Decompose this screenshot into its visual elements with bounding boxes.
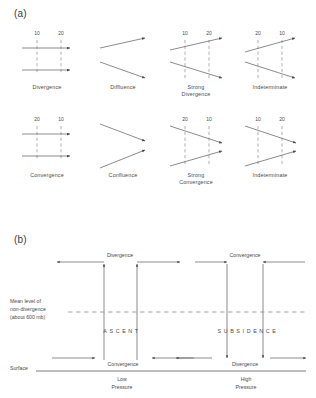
lower-left-label: Convergence — [108, 361, 139, 367]
flow-arrow — [245, 38, 295, 52]
flow-arrow — [100, 62, 145, 78]
upper-right-label: Convergence — [230, 252, 261, 258]
cell-caption: Indeterminate — [253, 172, 288, 178]
isoline-label-20: 20 — [255, 30, 261, 36]
figure-root: (a) (b) 10 20 Divergence Diffluence — [0, 0, 316, 398]
isoline-label-10: 10 — [34, 30, 40, 36]
mean-level-label-line3: (about 600 mb) — [10, 314, 45, 320]
cell-convergence: 20 10 Convergence — [22, 116, 70, 178]
isoline-label-10: 10 — [279, 30, 285, 36]
cell-strong-convergence: 20 10 Strong Convergence — [170, 116, 222, 185]
cell-caption: Confluence — [109, 172, 138, 178]
ascent-label: ASCENT — [103, 328, 140, 334]
isoline-label-10: 10 — [206, 116, 212, 122]
flow-arrow — [245, 62, 295, 78]
cell-caption-line2: Convergence — [179, 179, 213, 185]
isoline-label-20: 20 — [34, 116, 40, 122]
cell-caption: Indeterminate — [253, 84, 288, 90]
flow-arrow — [100, 150, 145, 168]
cell-caption: Diffluence — [110, 84, 135, 90]
lower-right-label: Divergence — [232, 361, 258, 367]
flow-arrow — [170, 126, 222, 143]
isoline-label-10: 10 — [255, 116, 261, 122]
flow-arrow — [245, 126, 296, 143]
isoline-label-20: 20 — [279, 116, 285, 122]
flow-arrow — [170, 38, 222, 50]
high-pressure-label-line2: Pressure — [236, 384, 257, 390]
panel-b-group: Divergence Convergence Mean level of non… — [10, 252, 306, 390]
flow-arrow — [100, 38, 145, 48]
cell-caption: Strong — [188, 172, 205, 178]
mean-level-label-line1: Mean level of — [10, 298, 41, 304]
panel-b-letter: (b) — [14, 234, 27, 245]
cell-divergence: 10 20 Divergence — [22, 30, 70, 90]
flow-arrow — [170, 62, 222, 78]
high-pressure-label-line1: High — [241, 376, 252, 382]
mean-level-label-line2: non-divergence — [10, 306, 46, 312]
cell-diffluence: Diffluence — [100, 38, 145, 90]
diagram-canvas: 10 20 Divergence Diffluence 10 20 Strong… — [0, 0, 316, 398]
cell-caption: Convergence — [30, 172, 64, 178]
isoline-label-10: 10 — [182, 30, 188, 36]
flow-arrow — [100, 124, 145, 141]
cell-confluence: Confluence — [100, 124, 145, 178]
low-pressure-label-line1: Low — [117, 376, 127, 382]
isoline-label-10: 10 — [58, 116, 64, 122]
cell-caption-line2: Divergence — [182, 91, 211, 97]
upper-left-label: Divergence — [107, 252, 133, 258]
surface-label: Surface — [10, 365, 28, 371]
subsidence-label: SUBSIDENCE — [217, 328, 278, 334]
flow-arrow — [170, 151, 222, 166]
isoline-label-20: 20 — [206, 30, 212, 36]
cell-indeterminate-top: 20 10 Indeterminate — [245, 30, 295, 90]
panel-a-letter: (a) — [14, 8, 27, 19]
cell-caption: Strong — [188, 84, 205, 90]
low-pressure-label-line2: Pressure — [112, 384, 133, 390]
isoline-label-20: 20 — [58, 30, 64, 36]
flow-arrow — [245, 151, 296, 166]
cell-caption: Divergence — [33, 84, 62, 90]
cell-indeterminate-bottom: 10 20 Indeterminate — [245, 116, 296, 178]
isoline-label-20: 20 — [182, 116, 188, 122]
cell-strong-divergence: 10 20 Strong Divergence — [170, 30, 222, 97]
